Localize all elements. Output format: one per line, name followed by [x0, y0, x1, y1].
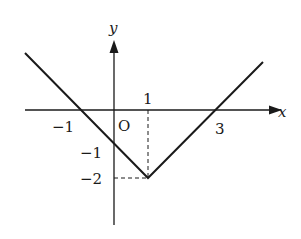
function-graph: y x O 1 −1 3 −1 −2	[0, 0, 301, 239]
x-tick-label-1: 1	[143, 90, 153, 108]
origin-label: O	[118, 117, 130, 135]
x-tick-label-neg1: −1	[52, 118, 74, 136]
x-tick-label-3: 3	[215, 120, 225, 138]
y-axis-label: y	[108, 19, 118, 37]
y-axis-arrow-icon	[110, 40, 119, 53]
function-curve	[25, 53, 263, 178]
y-tick-label-neg2: −2	[80, 170, 102, 188]
graph-canvas: y x O 1 −1 3 −1 −2	[0, 0, 301, 239]
y-tick-label-neg1: −1	[80, 144, 102, 162]
x-axis-label: x	[278, 103, 287, 121]
